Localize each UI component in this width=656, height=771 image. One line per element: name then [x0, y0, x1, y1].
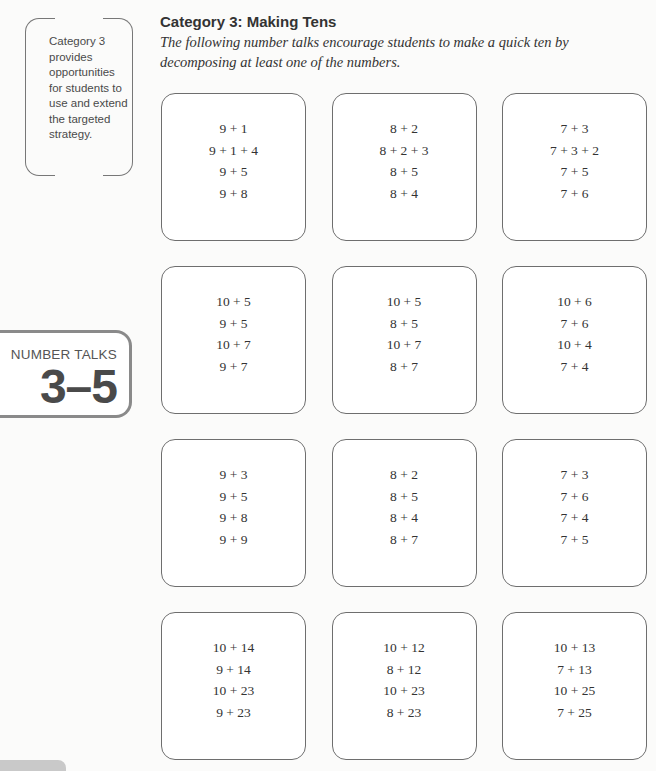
- problem: 8 + 4: [390, 507, 418, 529]
- problem: 8 + 2: [390, 464, 418, 486]
- problem: 7 + 6: [561, 183, 589, 205]
- problem: 9 + 7: [220, 356, 248, 378]
- problem: 9 + 23: [216, 702, 251, 724]
- number-talk-card: 10 + 14 9 + 14 10 + 23 9 + 23: [161, 612, 306, 760]
- card-row: 10 + 14 9 + 14 10 + 23 9 + 23 10 + 12 8 …: [161, 612, 647, 760]
- problem: 10 + 7: [216, 334, 251, 356]
- problem: 9 + 5: [220, 313, 248, 335]
- problem: 8 + 7: [390, 356, 418, 378]
- problem: 10 + 13: [554, 637, 595, 659]
- problem: 7 + 5: [561, 529, 589, 551]
- problem: 7 + 4: [561, 507, 589, 529]
- problem: 10 + 23: [213, 680, 254, 702]
- problem: 7 + 25: [557, 702, 592, 724]
- problem: 7 + 4: [561, 356, 589, 378]
- problem: 9 + 5: [220, 486, 248, 508]
- problem: 10 + 14: [213, 637, 254, 659]
- side-note: Category 3 provides opportunities for st…: [25, 18, 133, 176]
- problem: 8 + 23: [387, 702, 422, 724]
- problem: 7 + 3: [561, 464, 589, 486]
- problem: 8 + 2: [390, 118, 418, 140]
- number-talk-card: 10 + 13 7 + 13 10 + 25 7 + 25: [502, 612, 647, 760]
- problem: 10 + 5: [387, 291, 422, 313]
- side-note-text: Category 3 provides opportunities for st…: [49, 34, 129, 143]
- number-talk-card: 9 + 3 9 + 5 9 + 8 9 + 9: [161, 439, 306, 587]
- problem: 9 + 8: [220, 507, 248, 529]
- problem: 8 + 7: [390, 529, 418, 551]
- problem: 10 + 5: [216, 291, 251, 313]
- problem: 7 + 6: [561, 486, 589, 508]
- problem: 9 + 8: [220, 183, 248, 205]
- number-talks-badge: NUMBER TALKS 3–5: [0, 330, 132, 418]
- problem: 9 + 3: [220, 464, 248, 486]
- problem: 9 + 9: [220, 529, 248, 551]
- section-subtitle: The following number talks encourage stu…: [160, 32, 640, 72]
- number-talk-card: 8 + 2 8 + 2 + 3 8 + 5 8 + 4: [332, 93, 477, 241]
- number-talk-card: 8 + 2 8 + 5 8 + 4 8 + 7: [332, 439, 477, 587]
- problem: 9 + 5: [220, 161, 248, 183]
- badge-range: 3–5: [40, 359, 117, 414]
- problem: 10 + 6: [557, 291, 592, 313]
- problem: 8 + 5: [390, 486, 418, 508]
- card-row: 10 + 5 9 + 5 10 + 7 9 + 7 10 + 5 8 + 5 1…: [161, 266, 647, 414]
- problem: 10 + 23: [383, 680, 424, 702]
- problem: 7 + 3: [561, 118, 589, 140]
- number-talk-grid: 9 + 1 9 + 1 + 4 9 + 5 9 + 8 8 + 2 8 + 2 …: [161, 93, 647, 771]
- problem: 7 + 13: [557, 659, 592, 681]
- problem: 9 + 1: [220, 118, 248, 140]
- problem: 7 + 5: [561, 161, 589, 183]
- problem: 7 + 3 + 2: [550, 140, 599, 162]
- section-header: Category 3: Making Tens The following nu…: [160, 12, 640, 72]
- problem: 10 + 25: [554, 680, 595, 702]
- problem: 8 + 12: [387, 659, 422, 681]
- number-talk-card: 7 + 3 7 + 3 + 2 7 + 5 7 + 6: [502, 93, 647, 241]
- section-title: Category 3: Making Tens: [160, 12, 640, 32]
- card-row: 9 + 3 9 + 5 9 + 8 9 + 9 8 + 2 8 + 5 8 + …: [161, 439, 647, 587]
- number-talk-card: 10 + 6 7 + 6 10 + 4 7 + 4: [502, 266, 647, 414]
- number-talk-card: 9 + 1 9 + 1 + 4 9 + 5 9 + 8: [161, 93, 306, 241]
- card-row: 9 + 1 9 + 1 + 4 9 + 5 9 + 8 8 + 2 8 + 2 …: [161, 93, 647, 241]
- problem: 9 + 1 + 4: [209, 140, 258, 162]
- problem: 10 + 4: [557, 334, 592, 356]
- problem: 8 + 2 + 3: [380, 140, 429, 162]
- page-corner-tab: [0, 760, 66, 771]
- number-talk-card: 10 + 5 9 + 5 10 + 7 9 + 7: [161, 266, 306, 414]
- problem: 8 + 4: [390, 183, 418, 205]
- number-talk-card: 7 + 3 7 + 6 7 + 4 7 + 5: [502, 439, 647, 587]
- number-talk-card: 10 + 5 8 + 5 10 + 7 8 + 7: [332, 266, 477, 414]
- problem: 10 + 12: [383, 637, 424, 659]
- problem: 9 + 14: [216, 659, 251, 681]
- problem: 8 + 5: [390, 161, 418, 183]
- problem: 8 + 5: [390, 313, 418, 335]
- number-talk-card: 10 + 12 8 + 12 10 + 23 8 + 23: [332, 612, 477, 760]
- problem: 10 + 7: [387, 334, 422, 356]
- problem: 7 + 6: [561, 313, 589, 335]
